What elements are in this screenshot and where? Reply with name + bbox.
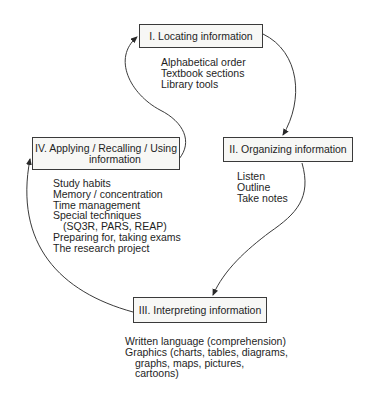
arrow-i-to-ii xyxy=(263,34,296,135)
list-item: The research project xyxy=(53,243,181,254)
stage-box-applying: IV. Applying / Recalling / Using informa… xyxy=(32,137,180,170)
stage-label-applying-line1: IV. Applying / Recalling / Using xyxy=(35,143,177,154)
list-item: Library tools xyxy=(161,79,246,90)
list-item: Memory / concentration xyxy=(53,189,181,200)
stage-label-interpreting: III. Interpreting information xyxy=(139,305,262,316)
list-item: Take notes xyxy=(237,193,288,204)
stage-box-interpreting: III. Interpreting information xyxy=(133,297,267,323)
stage-list-interpreting: Written language (comprehension) Graphic… xyxy=(125,336,288,379)
list-item: Outline xyxy=(237,182,288,193)
stage-list-organizing: Listen Outline Take notes xyxy=(237,171,288,203)
list-item: Textbook sections xyxy=(161,68,246,79)
stage-list-applying: Study habits Memory / concentration Time… xyxy=(53,178,181,254)
stage-box-organizing: II. Organizing information xyxy=(223,137,353,162)
stage-box-locating: I. Locating information xyxy=(139,24,263,48)
list-item: Graphics (charts, tables, diagrams, xyxy=(125,347,288,358)
stage-label-applying-line2: information xyxy=(71,154,141,165)
stage-label-locating: I. Locating information xyxy=(149,31,252,42)
stage-label-organizing: II. Organizing information xyxy=(229,144,346,155)
stage-list-locating: Alphabetical order Textbook sections Lib… xyxy=(161,57,246,89)
list-item: cartoons) xyxy=(125,368,288,379)
